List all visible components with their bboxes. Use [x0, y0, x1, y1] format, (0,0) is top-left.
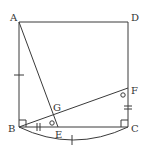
label-G: G	[53, 102, 61, 113]
right-angle-C-icon	[121, 120, 128, 127]
segment-BF	[19, 88, 128, 127]
label-E: E	[55, 129, 62, 140]
label-D: D	[131, 12, 139, 23]
arc-BC	[19, 127, 128, 140]
label-C: C	[131, 123, 139, 134]
angle-circle-E-icon	[50, 121, 54, 125]
angle-circle-F-icon	[121, 93, 125, 97]
label-F: F	[131, 85, 138, 96]
label-B: B	[8, 123, 15, 134]
geometry-diagram: A D B C E F G	[0, 0, 145, 147]
label-A: A	[9, 12, 18, 23]
